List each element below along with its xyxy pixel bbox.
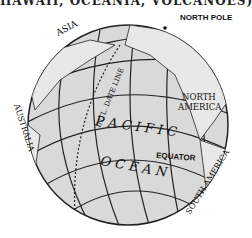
label-north-america-2: AMERICA [177,102,222,112]
label-asia: ASIA [53,18,79,38]
label-north-pole: NORTH POLE [180,13,233,22]
globe-map: ASIA NORTH POLE NORTH AMERICA INTL. DATE… [0,0,252,238]
label-north-america-1: NORTH [182,92,216,102]
north-pole-marker [163,26,167,30]
